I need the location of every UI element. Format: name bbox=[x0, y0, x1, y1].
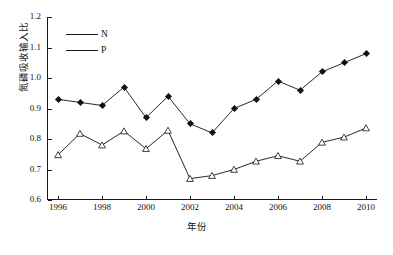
data-point-p bbox=[77, 130, 84, 136]
x-tick-label: 1996 bbox=[41, 202, 75, 212]
x-axis-title: 年份 bbox=[0, 219, 393, 233]
y-tick-label: 0.7 bbox=[13, 165, 41, 174]
data-point-p bbox=[231, 166, 238, 172]
data-point-p bbox=[363, 125, 370, 131]
legend-swatch-n bbox=[66, 28, 98, 40]
legend-item-p: P bbox=[66, 42, 108, 58]
series-line-n bbox=[58, 54, 366, 133]
y-tick-label: 0.6 bbox=[13, 195, 41, 204]
x-tick-label: 2010 bbox=[349, 202, 383, 212]
data-point-p bbox=[121, 128, 128, 134]
data-point-p bbox=[165, 127, 172, 133]
x-tick-label: 2004 bbox=[217, 202, 251, 212]
x-tick-label: 1998 bbox=[85, 202, 119, 212]
data-point-p bbox=[275, 153, 282, 159]
chart-legend: N P bbox=[66, 26, 108, 58]
legend-label-p: P bbox=[101, 45, 106, 55]
y-axis-title: 氮磷吸收输入比 bbox=[16, 0, 30, 127]
x-tick-label: 2000 bbox=[129, 202, 163, 212]
legend-label-n: N bbox=[101, 29, 108, 39]
data-point-p bbox=[341, 134, 348, 140]
data-point-p bbox=[99, 142, 106, 148]
x-tick-label: 2008 bbox=[305, 202, 339, 212]
legend-item-n: N bbox=[66, 26, 108, 42]
x-tick-label: 2006 bbox=[261, 202, 295, 212]
legend-swatch-p bbox=[66, 44, 98, 56]
y-tick-label: 0.8 bbox=[13, 134, 41, 143]
chart-figure: 0.60.70.80.91.01.11.2 199619982000200220… bbox=[0, 0, 393, 255]
x-tick-label: 2002 bbox=[173, 202, 207, 212]
open-triangle-icon bbox=[78, 47, 84, 63]
y-tick bbox=[48, 200, 52, 201]
